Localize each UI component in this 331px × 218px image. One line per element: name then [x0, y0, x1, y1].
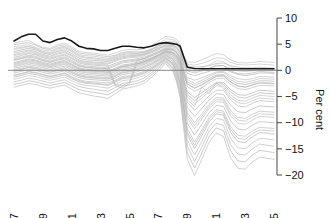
y-tick-label: 0 — [285, 64, 291, 76]
x-tick-label: 2007 — [152, 213, 164, 218]
chart-container: 1050−5−10−15−20 199719992001200320052007… — [0, 0, 331, 218]
y-tick-label: −10 — [285, 116, 304, 128]
x-tick-label: 2001 — [66, 213, 78, 218]
y-tick-label: −20 — [285, 169, 304, 181]
x-tick-label: 2015 — [268, 213, 280, 218]
y-axis-title-text: Per cent — [314, 89, 326, 130]
line-chart: 1050−5−10−15−20 199719992001200320052007… — [0, 0, 331, 218]
x-tick-label: 2011 — [210, 213, 222, 218]
chart-background — [0, 0, 331, 218]
x-tick-label: 2009 — [181, 213, 193, 218]
x-tick-label: 2003 — [95, 213, 107, 218]
y-axis-title: Per cent — [314, 89, 326, 130]
x-tick-label: 1997 — [8, 213, 20, 218]
y-tick-label: 10 — [285, 12, 297, 24]
x-tick-label: 2005 — [124, 213, 136, 218]
y-tick-label: 5 — [285, 38, 291, 50]
x-tick-label: 1999 — [37, 213, 49, 218]
y-tick-label: −5 — [285, 90, 298, 102]
x-tick-label: 2013 — [239, 213, 251, 218]
y-tick-label: −15 — [285, 143, 304, 155]
